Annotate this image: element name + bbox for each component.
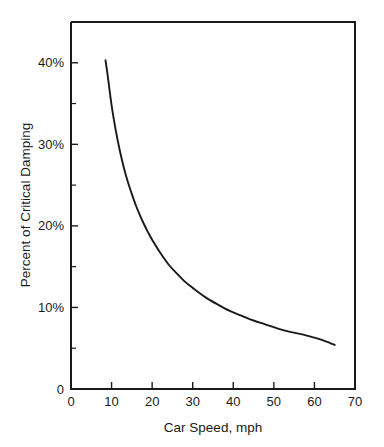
- x-tick-label: 20: [145, 394, 159, 409]
- y-tick-label: 20%: [38, 218, 64, 233]
- x-axis-title: Car Speed, mph: [164, 420, 262, 435]
- y-tick-label: 10%: [38, 300, 64, 315]
- x-tick-label: 10: [104, 394, 118, 409]
- x-tick-label: 50: [267, 394, 281, 409]
- damping-vs-speed-chart: 010203040506070 010%20%30%40% Car Speed,…: [0, 0, 384, 447]
- chart-figure: 010203040506070 010%20%30%40% Car Speed,…: [0, 0, 384, 447]
- x-tick-label: 40: [226, 394, 240, 409]
- x-tick-label: 70: [348, 394, 362, 409]
- y-tick-label: 30%: [38, 137, 64, 152]
- x-tick-label: 60: [307, 394, 321, 409]
- y-tick-label: 0: [57, 382, 64, 397]
- y-axis-title: Percent of Critical Damping: [18, 123, 33, 287]
- y-tick-label: 40%: [38, 55, 64, 70]
- x-tick-label: 30: [185, 394, 199, 409]
- x-tick-label: 0: [67, 394, 74, 409]
